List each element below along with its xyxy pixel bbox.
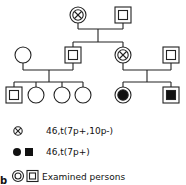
legend-affected-label: 46,t(7p+) xyxy=(46,147,90,157)
panel-label: b xyxy=(0,175,7,185)
legend-text-layer: 46,t(7p+,10p-) 46,t(7p+) Examined person… xyxy=(0,0,186,185)
legend-examined-label: Examined persons xyxy=(42,172,125,182)
legend-carrier-label: 46,t(7p+,10p-) xyxy=(46,126,113,136)
